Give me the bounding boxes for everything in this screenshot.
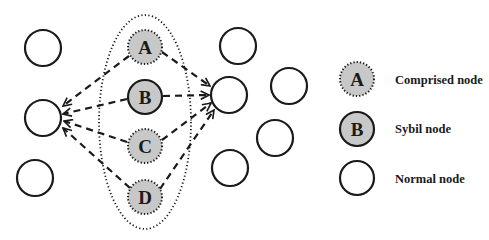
- node-a-label: A: [138, 37, 152, 58]
- normal-node-right-bottom: [212, 150, 248, 186]
- legend-item-normal: Normal node: [340, 161, 465, 195]
- legend-item-sybil: B Sybil node: [340, 112, 451, 146]
- legend-normal-label: Normal node: [395, 172, 465, 186]
- normal-node-right-mid: [257, 120, 293, 156]
- edge-d-left: [63, 128, 130, 188]
- edge-b-left: [63, 99, 127, 114]
- sybil-group-nodes: A B C D: [128, 30, 162, 214]
- edge-c-left: [64, 121, 127, 142]
- node-b: B: [128, 80, 162, 114]
- normal-node-right-top: [220, 28, 256, 64]
- node-c: C: [128, 129, 162, 163]
- legend-compromised-label: Comprised node: [395, 73, 483, 87]
- sybil-attack-diagram: A B C D A Comprised node B Sybil node No: [0, 0, 489, 240]
- normal-node-left-bottom: [17, 160, 53, 196]
- node-b-label: B: [139, 87, 152, 108]
- normal-node-right-far: [271, 68, 307, 104]
- normal-node-left-target: [25, 100, 61, 136]
- legend-sybil-label: Sybil node: [395, 122, 451, 136]
- edge-c-right: [162, 103, 211, 140]
- legend-item-compromised: A Comprised node: [340, 62, 483, 96]
- edge-b-right: [163, 95, 209, 96]
- legend: A Comprised node B Sybil node Normal nod…: [340, 62, 483, 195]
- node-d-label: D: [138, 187, 152, 208]
- edge-a-left: [63, 56, 129, 106]
- node-d: D: [128, 180, 162, 214]
- normal-node-right-target: [211, 77, 247, 113]
- legend-normal-icon: [340, 161, 374, 195]
- edge-a-right: [162, 52, 210, 86]
- legend-sybil-symbol: B: [351, 119, 364, 140]
- edges-to-left-target: [63, 56, 130, 188]
- normal-node-left-top: [25, 30, 61, 66]
- node-a: A: [128, 30, 162, 64]
- legend-compromised-symbol: A: [350, 69, 364, 90]
- edges-to-right-target: [160, 52, 214, 189]
- node-c-label: C: [138, 136, 152, 157]
